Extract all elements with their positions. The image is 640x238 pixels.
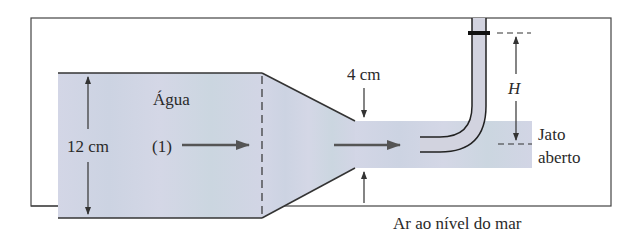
pitot-level-marker <box>468 31 490 35</box>
small-diameter-label: 4 cm <box>347 65 381 84</box>
ambient-label: Ar ao nível do mar <box>393 214 522 233</box>
height-label: H <box>507 79 522 98</box>
fluid-label: Água <box>153 90 190 109</box>
jet-label-line1: Jato <box>538 125 565 144</box>
jet-label-line2: aberto <box>538 148 580 167</box>
section-label: (1) <box>152 137 172 156</box>
nozzle-pitot-diagram: 12 cm Água (1) 4 cm H Jato aberto Ar ao … <box>0 0 640 238</box>
large-diameter-label: 12 cm <box>67 137 109 156</box>
